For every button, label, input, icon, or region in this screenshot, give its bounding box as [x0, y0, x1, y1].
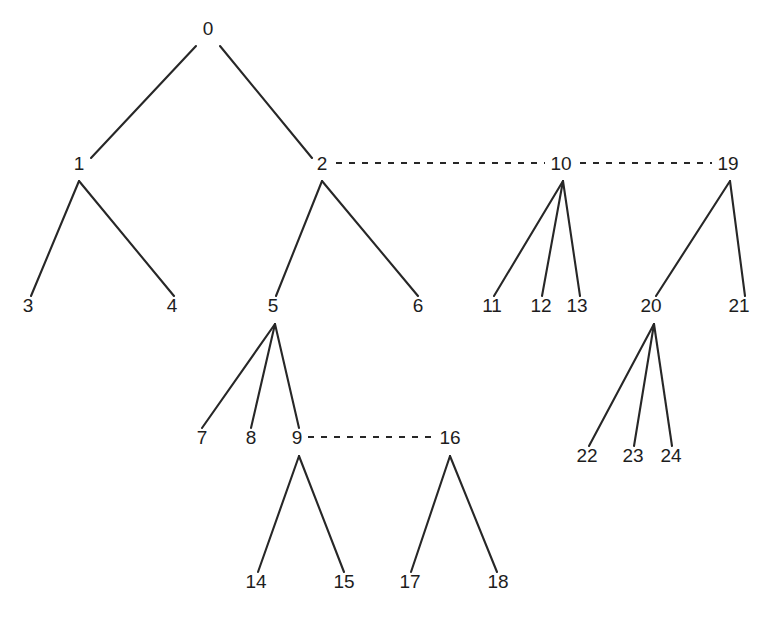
tree-node-3[interactable]: 3	[23, 295, 34, 316]
tree-node-21[interactable]: 21	[728, 295, 749, 316]
tree-node-17[interactable]: 17	[399, 571, 420, 592]
tree-node-12[interactable]: 12	[530, 295, 551, 316]
edges-layer	[31, 46, 745, 572]
tree-edge-5-9	[275, 324, 299, 428]
tree-edge-19-20	[656, 181, 730, 296]
tree-node-2[interactable]: 2	[317, 153, 328, 174]
tree-edge-20-24	[654, 324, 672, 446]
nodes-layer: 0123456789101112131415161718192021222324	[23, 18, 750, 592]
tree-node-13[interactable]: 13	[566, 295, 587, 316]
tree-node-5[interactable]: 5	[268, 295, 279, 316]
tree-node-8[interactable]: 8	[246, 427, 257, 448]
tree-node-20[interactable]: 20	[640, 295, 661, 316]
tree-edge-16-17	[411, 456, 450, 572]
tree-edge-10-13	[563, 181, 580, 296]
tree-node-7[interactable]: 7	[197, 427, 208, 448]
tree-edge-1-4	[79, 181, 174, 296]
tree-node-0[interactable]: 0	[203, 18, 214, 39]
tree-edge-16-18	[450, 456, 497, 572]
tree-node-19[interactable]: 19	[717, 153, 738, 174]
tree-node-14[interactable]: 14	[245, 571, 267, 592]
tree-node-4[interactable]: 4	[167, 295, 178, 316]
tree-node-15[interactable]: 15	[333, 571, 354, 592]
tree-edge-0-2	[220, 46, 312, 158]
tree-node-16[interactable]: 16	[439, 427, 460, 448]
tree-node-11[interactable]: 11	[482, 295, 502, 316]
tree-node-9[interactable]: 9	[292, 427, 303, 448]
tree-node-18[interactable]: 18	[487, 571, 508, 592]
tree-edge-2-5	[276, 181, 322, 296]
tree-node-22[interactable]: 22	[576, 445, 597, 466]
tree-edge-9-14	[258, 456, 299, 572]
tree-diagram-canvas: 0123456789101112131415161718192021222324	[0, 0, 775, 623]
tree-edge-2-6	[322, 181, 418, 296]
tree-edge-1-3	[31, 181, 79, 296]
tree-node-23[interactable]: 23	[622, 445, 643, 466]
tree-node-24[interactable]: 24	[660, 445, 682, 466]
tree-edge-19-21	[730, 181, 745, 296]
tree-edge-0-1	[91, 46, 196, 158]
tree-edge-9-15	[299, 456, 344, 572]
tree-node-10[interactable]: 10	[550, 153, 571, 174]
tree-node-1[interactable]: 1	[74, 153, 85, 174]
tree-node-6[interactable]: 6	[413, 295, 424, 316]
tree-diagram-svg: 0123456789101112131415161718192021222324	[0, 0, 775, 623]
